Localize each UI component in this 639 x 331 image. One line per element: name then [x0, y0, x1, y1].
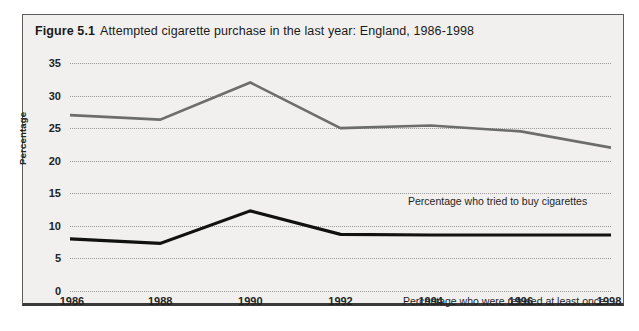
series-line: [70, 83, 611, 148]
y-axis-tick-label: 5: [31, 252, 61, 264]
y-axis-tick-labels: 05101520253035: [31, 63, 61, 291]
chart-panel: Figure 5.1Attempted cigarette purchase i…: [22, 14, 624, 306]
annotation-tried-to-buy: Percentage who tried to buy cigarettes: [408, 195, 587, 207]
y-axis-tick-label: 10: [31, 220, 61, 232]
series-line: [70, 211, 611, 244]
figure-title-text: Attempted cigarette purchase in the last…: [100, 24, 474, 38]
y-axis-tick-label: 15: [31, 187, 61, 199]
chart-series-svg: [70, 63, 611, 291]
figure-page: Figure 5.1Attempted cigarette purchase i…: [0, 0, 639, 331]
x-axis-tick-label: 1990: [238, 295, 262, 307]
y-axis-tick-label: 20: [31, 155, 61, 167]
x-axis-tick-label: 1992: [328, 295, 352, 307]
x-axis-tick-label: 1994: [418, 295, 442, 307]
y-axis-tick-label: 30: [31, 90, 61, 102]
y-axis-tick-label: 0: [31, 285, 61, 297]
x-axis-tick-labels: 1986198819901992199419961998: [70, 295, 611, 311]
x-axis-tick-label: 1998: [597, 295, 621, 307]
plot-area: Percentage who tried to buy cigarettes P…: [70, 63, 611, 291]
gridline: [70, 291, 611, 292]
y-axis-title: Percentage: [17, 112, 28, 165]
y-axis-tick-label: 35: [31, 57, 61, 69]
x-axis-tick-label: 1988: [148, 295, 172, 307]
figure-number: Figure 5.1: [35, 24, 95, 38]
y-axis-tick-label: 25: [31, 122, 61, 134]
figure-title: Figure 5.1Attempted cigarette purchase i…: [35, 24, 474, 38]
x-axis-tick-label: 1996: [509, 295, 533, 307]
x-axis-tick-label: 1986: [60, 295, 84, 307]
